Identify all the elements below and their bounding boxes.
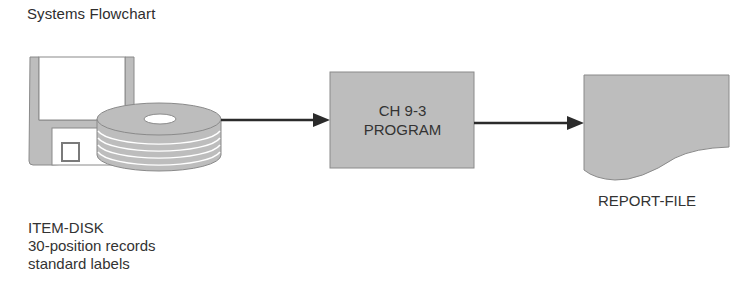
arrow-disk-to-program [221,113,330,127]
caption-line-1: ITEM-DISK [28,219,156,237]
caption-line-2: 30-position records [28,237,156,255]
process-label-line-1: CH 9-3 [379,101,427,120]
process-label-line-2: PROGRAM [364,120,442,139]
item-disk-caption: ITEM-DISK 30-position records standard l… [28,219,156,273]
process-label: CH 9-3 PROGRAM [330,72,475,168]
document-shape [584,75,729,180]
magnetic-disk-icon [97,103,221,171]
arrow-program-to-report [474,116,584,130]
caption-line-3: standard labels [28,255,156,273]
report-file-label: REPORT-FILE [598,192,696,209]
